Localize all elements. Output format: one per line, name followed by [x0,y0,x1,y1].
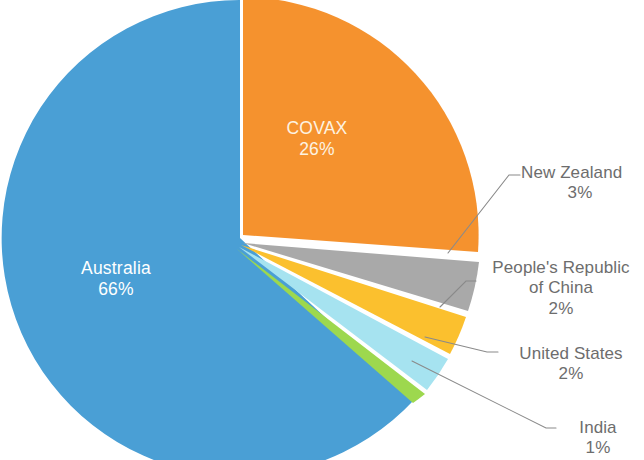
callout-china-name-line2: of China [477,278,644,298]
callout-label-india: India 1% [555,418,641,459]
callout-india-value: 1% [555,438,641,458]
callout-label-china: People's Republic of China 2% [477,258,644,319]
callout-label-new-zealand: New Zealand 3% [521,163,644,204]
pie-slices [2,0,479,460]
callout-china-name-line1: People's Republic [477,258,644,278]
pie-chart-canvas [0,0,644,460]
callout-new-zealand-name: New Zealand [521,163,644,183]
pie-slice-covax[interactable] [243,0,479,252]
callout-united-states-name: United States [501,344,641,364]
callout-india-name: India [555,418,641,438]
pie-chart: Australia 66% COVAX 26% New Zealand 3% P… [0,0,644,460]
callout-new-zealand-value: 3% [521,183,639,203]
callout-label-united-states: United States 2% [501,344,641,385]
callout-united-states-value: 2% [501,364,641,384]
callout-china-value: 2% [477,299,644,319]
